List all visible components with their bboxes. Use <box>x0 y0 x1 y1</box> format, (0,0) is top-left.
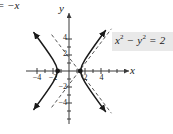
branch-right-upper <box>80 31 105 72</box>
y-axis-label: y <box>59 2 64 14</box>
x-axis-label: x <box>130 64 135 76</box>
y-tick-label-neg2: −2 <box>53 82 67 91</box>
x-tick-label-pos2: 2 <box>81 73 90 82</box>
x-tick-label-pos4: 4 <box>97 73 106 82</box>
x-tick-label-neg2: −2 <box>46 73 60 82</box>
axes-group <box>26 13 129 124</box>
x-tick-label-neg4: −4 <box>30 73 44 82</box>
equation-minus: − <box>124 34 138 46</box>
y-tick-label-neg4: −4 <box>53 98 67 107</box>
y-tick-label-pos2: 2 <box>58 49 67 58</box>
equation-tail: = 2 <box>146 34 165 46</box>
branch-left-upper <box>34 33 58 72</box>
hyperbola-figure: x2 − y2 = 2 = −x y x −4 −2 2 4 4 2 −2 −4 <box>0 0 173 134</box>
plot-canvas <box>0 0 173 134</box>
equation-label: x2 − y2 = 2 <box>115 33 165 46</box>
y-tick-label-pos4: 4 <box>58 33 67 42</box>
asymptote-corner-label: = −x <box>0 0 19 11</box>
